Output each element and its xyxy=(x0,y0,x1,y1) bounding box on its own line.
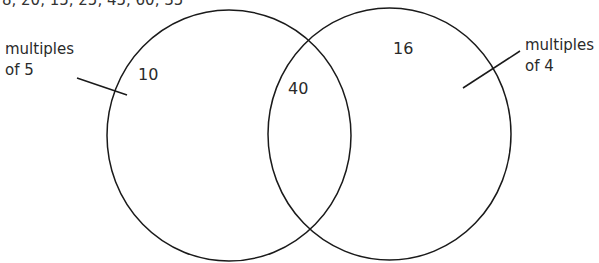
region-right-only: 16 xyxy=(393,39,413,58)
set-circle-multiples-of-5 xyxy=(107,10,351,261)
set-label-right-line1: multiples xyxy=(525,35,594,56)
region-left-only: 10 xyxy=(138,65,158,84)
label-pointer-right xyxy=(463,51,520,88)
set-label-left: multiples of 5 xyxy=(5,39,74,81)
set-label-left-line2: of 5 xyxy=(5,60,74,81)
set-circle-multiples-of-4 xyxy=(268,8,511,260)
venn-diagram xyxy=(0,0,599,263)
set-label-right-line2: of 4 xyxy=(525,56,594,77)
set-label-left-line1: multiples xyxy=(5,39,74,60)
region-intersection: 40 xyxy=(288,79,308,98)
set-label-right: multiples of 4 xyxy=(525,35,594,77)
